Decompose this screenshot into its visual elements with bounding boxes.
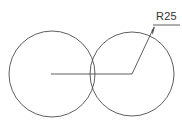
cad-drawing-canvas: R25 [0,0,182,134]
cad-drawing-svg: R25 [0,0,182,134]
radius-dimension-label: R25 [156,10,177,22]
radius-leader-diagonal [132,27,154,74]
